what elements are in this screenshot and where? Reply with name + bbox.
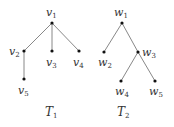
edge-w1-w3 xyxy=(122,23,138,52)
node-v2 xyxy=(22,49,25,52)
edge-w1-w2 xyxy=(104,23,122,52)
label-w1: w1 xyxy=(114,6,128,20)
label-v3: v3 xyxy=(46,56,57,70)
label-w5: w5 xyxy=(149,85,163,99)
node-v3 xyxy=(50,49,53,52)
node-v4 xyxy=(77,49,80,52)
edge-w3-w4 xyxy=(121,52,138,81)
edge-v1-v4 xyxy=(52,23,79,51)
edge-v1-v2 xyxy=(24,23,52,51)
tree-diagram: v1 v2 v3 v4 v5 T1 w1 w2 w3 w4 w5 T2 xyxy=(0,0,174,127)
label-w3: w3 xyxy=(142,46,156,60)
label-v1: v1 xyxy=(46,6,57,20)
node-v5 xyxy=(22,77,25,80)
node-w3 xyxy=(136,50,139,53)
node-w1 xyxy=(120,21,123,24)
label-v5: v5 xyxy=(18,84,29,98)
node-w4 xyxy=(119,79,122,82)
label-v4: v4 xyxy=(73,56,84,70)
node-w2 xyxy=(102,50,105,53)
caption-t1: T1 xyxy=(45,105,57,120)
node-w5 xyxy=(153,79,156,82)
label-w2: w2 xyxy=(98,56,112,70)
tree-t1: v1 v2 v3 v4 v5 T1 xyxy=(9,6,84,120)
caption-t2: T2 xyxy=(117,105,129,120)
label-w4: w4 xyxy=(115,85,129,99)
label-v2: v2 xyxy=(9,45,20,59)
node-v1 xyxy=(50,21,53,24)
tree-t2: w1 w2 w3 w4 w5 T2 xyxy=(98,6,163,120)
